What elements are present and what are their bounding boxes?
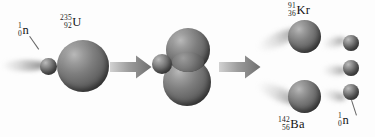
arrow-deform-to-split [219, 55, 261, 79]
krypton-isotope-numbers: 91 36 [288, 2, 296, 18]
deformed-nucleus-neck [172, 52, 204, 72]
emitted-neutron-3-sphere [343, 84, 359, 100]
incident-neutron-leader-line [29, 36, 39, 50]
emitted-neutron-2-sphere [343, 60, 359, 76]
incident-neutron-label: 1 0 n [18, 22, 29, 38]
barium-isotope-numbers: 142 56 [278, 116, 290, 132]
incident-neutron-sphere [40, 58, 57, 75]
incident-neutron-isotope-numbers: 1 0 [18, 22, 22, 38]
barium-142-sphere [288, 80, 321, 113]
emitted-neutron-label: 1 0 n [338, 112, 349, 128]
arrow-capture-to-deform [110, 55, 152, 79]
krypton-91-sphere [288, 20, 321, 53]
krypton-91-label: 91 36 Kr [288, 2, 310, 18]
barium-142-label: 142 56 Ba [278, 116, 305, 132]
emitted-neutron-1-sphere [343, 35, 359, 51]
fission-diagram: 1 0 n 235 92 U [0, 0, 375, 137]
uranium-isotope-numbers: 235 92 [60, 14, 72, 30]
uranium-235-label: 235 92 U [60, 14, 82, 30]
deformed-nucleus-side-bump [152, 54, 172, 74]
uranium-235-sphere [57, 40, 109, 92]
emitted-neutron-leader-line [351, 100, 357, 116]
emitted-neutron-isotope-numbers: 1 0 [338, 112, 342, 128]
